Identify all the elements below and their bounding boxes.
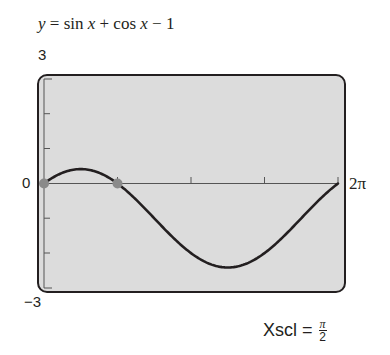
xscl-text: Xscl = bbox=[263, 320, 313, 341]
fraction-denominator: 2 bbox=[319, 331, 326, 343]
xscl-label: Xscl = π 2 bbox=[263, 318, 327, 343]
xscl-fraction: π 2 bbox=[319, 318, 327, 343]
graph-screen bbox=[0, 0, 390, 355]
intercept-point-origin bbox=[39, 179, 49, 189]
intercept-point-pi-over-2 bbox=[113, 179, 123, 189]
